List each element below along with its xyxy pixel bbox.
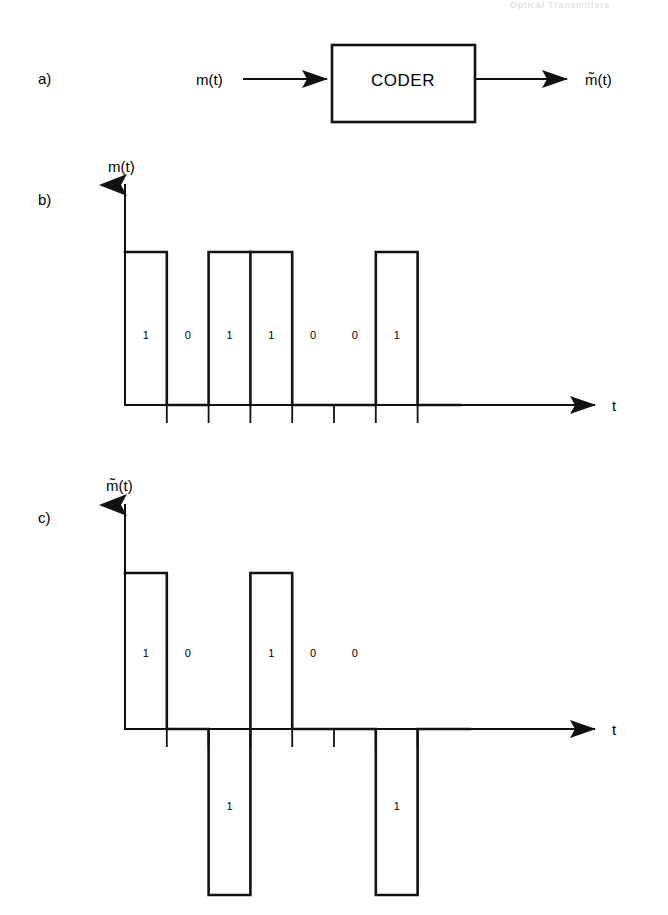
bit-label: 0 bbox=[352, 329, 358, 341]
part-c-label: c) bbox=[38, 509, 51, 526]
part-b-y-axis-label: m(t) bbox=[108, 158, 135, 175]
part-b-axis-ticks bbox=[167, 405, 418, 423]
part-b-x-axis-label: t bbox=[612, 397, 617, 414]
output-signal-label: m̃(t) bbox=[585, 71, 612, 88]
part-c-waveform-chart: c) m̃(t) t 1 0 1 0 0 bbox=[0, 455, 668, 915]
bit-label: 0 bbox=[310, 647, 316, 659]
bit-label: 0 bbox=[185, 647, 191, 659]
bit-label: 1 bbox=[268, 647, 274, 659]
bit-label: 1 bbox=[143, 647, 149, 659]
bit-label: 1 bbox=[394, 800, 400, 812]
part-c-waveform-path bbox=[125, 573, 470, 895]
part-c-bit-labels-below: 1 1 bbox=[226, 800, 399, 812]
input-signal-label: m(t) bbox=[196, 71, 223, 88]
figure-root: Optical Transmitters a) m(t) CODER m̃(t)… bbox=[0, 0, 668, 915]
part-a-label: a) bbox=[38, 70, 51, 87]
coder-block-label: CODER bbox=[371, 71, 435, 90]
part-b-bit-labels: 1 0 1 1 0 0 1 bbox=[143, 329, 400, 341]
part-b-label: b) bbox=[38, 191, 51, 208]
page-header-text: Optical Transmitters bbox=[510, 0, 610, 10]
output-signal-text: m̃(t) bbox=[585, 71, 612, 88]
part-b-waveform-chart: b) m(t) t 1 0 1 1 0 0 1 bbox=[0, 140, 668, 455]
part-b-waveform-path bbox=[125, 252, 460, 405]
bit-label: 1 bbox=[143, 329, 149, 341]
bit-label: 0 bbox=[185, 329, 191, 341]
part-c-x-axis-label: t bbox=[612, 721, 617, 738]
bit-label: 1 bbox=[268, 329, 274, 341]
bit-label: 1 bbox=[394, 329, 400, 341]
bit-label: 1 bbox=[226, 329, 232, 341]
part-c-y-axis-text: m̃(t) bbox=[106, 477, 133, 494]
part-c-axis-ticks bbox=[167, 729, 418, 747]
part-c-y-axis-label: m̃(t) bbox=[106, 477, 133, 494]
part-a-block-diagram: Optical Transmitters a) m(t) CODER m̃(t) bbox=[0, 0, 668, 140]
bit-label: 1 bbox=[226, 800, 232, 812]
bit-label: 0 bbox=[310, 329, 316, 341]
bit-label: 0 bbox=[352, 647, 358, 659]
